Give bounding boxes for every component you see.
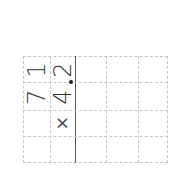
digit: 4 [51, 89, 75, 104]
grid-row-divider [23, 110, 168, 111]
digit: 2 [51, 62, 75, 77]
multiply-sign: × [53, 116, 73, 130]
grid-cell-operator: × [50, 110, 75, 136]
grid-row-divider [23, 136, 168, 137]
grid-cell-multiplier-digit: 4 [50, 83, 75, 110]
digit: 1 [25, 62, 49, 77]
grid-cell-multiplicand-digit: 1 [23, 56, 50, 83]
grid-cell-multiplier-digit: 2 [50, 56, 75, 83]
digit: 7 [25, 89, 49, 104]
grid-cell-multiplicand-digit: 7 [23, 83, 50, 110]
decimal-point [69, 80, 73, 84]
